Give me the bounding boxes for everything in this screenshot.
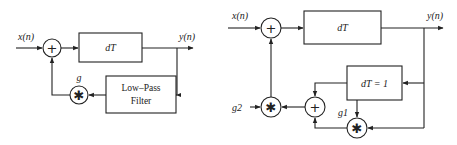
g1-label: g1 (338, 107, 348, 118)
delay-block-label: dT (105, 42, 117, 53)
output-label: y(n) (426, 10, 444, 22)
multiply-icon: ✱ (74, 88, 85, 103)
filter-label-line2: Filter (131, 96, 152, 106)
plus-icon: + (47, 41, 58, 56)
unit-delay-to-inner-sum-arrow (315, 83, 347, 96)
input-label: x(n) (231, 10, 249, 22)
right-diagram: x(n) + dT y(n) dT = 1 ✱ g1 + (228, 10, 444, 138)
gain-label: g (77, 72, 82, 83)
multiply-icon: ✱ (352, 121, 363, 136)
block-diagrams: x(n) + dT y(n) Low–Pass Filter ✱ g x(n) (0, 0, 457, 145)
delay-block-label: dT (337, 22, 349, 33)
input-label: x(n) (17, 31, 35, 43)
left-diagram: x(n) + dT y(n) Low–Pass Filter ✱ g (16, 31, 196, 113)
plus-icon: + (310, 100, 321, 115)
output-label: y(n) (178, 31, 196, 43)
g2-label: g2 (232, 102, 242, 113)
multiply-icon: ✱ (266, 100, 277, 115)
low-pass-filter-block (106, 76, 176, 113)
filter-label-line1: Low–Pass (121, 83, 160, 93)
unit-delay-label: dT = 1 (361, 78, 388, 89)
gain-to-sum-arrow (52, 58, 70, 95)
g1-to-inner-sum-arrow (315, 118, 347, 128)
plus-icon: + (266, 21, 277, 36)
